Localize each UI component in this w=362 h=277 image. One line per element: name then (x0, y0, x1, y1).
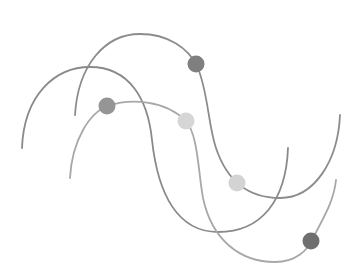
wave-1-curve (22, 67, 288, 232)
dot-2-circle-icon (99, 98, 116, 115)
wave-3-curve (70, 102, 336, 262)
wave-2-curve (75, 34, 340, 198)
dot-3-circle-icon (178, 113, 195, 130)
dot-1-circle-icon (188, 56, 205, 73)
dot-5-circle-icon (303, 233, 320, 250)
wave-graphic (0, 0, 362, 277)
wave-illustration (0, 0, 362, 277)
dot-4-circle-icon (229, 175, 246, 192)
